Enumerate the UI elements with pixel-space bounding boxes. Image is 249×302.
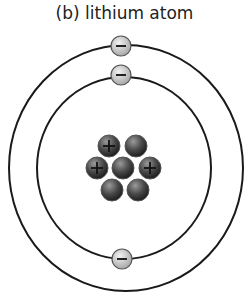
electron (111, 65, 131, 85)
proton (98, 135, 120, 157)
electron (111, 36, 131, 56)
neutron (101, 179, 123, 201)
atom-diagram (0, 0, 249, 302)
proton (139, 157, 161, 179)
proton (86, 157, 108, 179)
nucleus (86, 135, 161, 201)
neutron (127, 179, 149, 201)
neutron (125, 135, 147, 157)
electron (112, 249, 132, 269)
neutron (112, 157, 134, 179)
